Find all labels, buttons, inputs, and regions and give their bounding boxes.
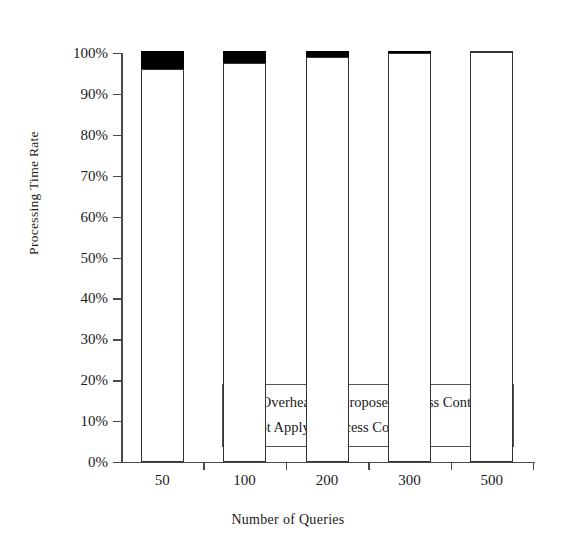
y-tick-label: 60% — [44, 209, 108, 224]
y-tick-mark — [113, 380, 122, 381]
x-tick-mark — [286, 462, 287, 470]
x-tick-label: 200 — [287, 472, 367, 489]
y-tick-mark — [113, 462, 122, 463]
bar-segment-base — [223, 63, 266, 462]
y-tick-mark — [113, 94, 122, 95]
y-tick-mark — [113, 176, 122, 177]
bar-segment-base — [388, 53, 431, 462]
legend-label-overhead: + Overhead for Proposed Access Control — [249, 395, 487, 410]
y-tick-mark — [113, 298, 122, 299]
y-tick-label: 80% — [44, 127, 108, 142]
legend-item-base: Not Apply to Access Control — [231, 415, 505, 440]
x-tick-label: 500 — [452, 472, 532, 489]
x-tick-label: 100 — [205, 472, 285, 489]
y-tick-mark — [113, 53, 122, 54]
bar-segment-overhead — [223, 51, 266, 63]
y-tick-mark — [113, 217, 122, 218]
y-tick-label: 10% — [44, 414, 108, 429]
legend-item-overhead: + Overhead for Proposed Access Control — [231, 390, 505, 415]
y-tick-label: 30% — [44, 332, 108, 347]
bar-segment-base — [470, 51, 513, 462]
bar-segment-base — [306, 57, 349, 462]
bar-segment-overhead — [388, 51, 431, 53]
x-axis-title: Number of Queries — [0, 512, 576, 528]
x-tick-mark — [368, 462, 369, 470]
y-axis-tick-labels: 0%10%20%30%40%50%60%70%80%90%100% — [40, 0, 108, 560]
y-tick-label: 50% — [44, 250, 108, 265]
x-tick-mark — [451, 462, 452, 470]
bar-segment-overhead — [141, 51, 184, 69]
x-tick-mark — [533, 462, 534, 470]
y-tick-label: 20% — [44, 373, 108, 388]
y-tick-label: 40% — [44, 291, 108, 306]
bar-chart: Processing Time Rate 0%10%20%30%40%50%60… — [0, 0, 576, 560]
y-tick-mark — [113, 135, 122, 136]
x-tick-label: 300 — [369, 472, 449, 489]
y-tick-label: 90% — [44, 86, 108, 101]
y-tick-label: 70% — [44, 168, 108, 183]
bar-segment-base — [141, 69, 184, 462]
y-tick-label: 100% — [44, 46, 108, 61]
x-tick-label: 50 — [122, 472, 202, 489]
bar-segment-overhead — [306, 51, 349, 57]
bar-segment-top-outline — [470, 51, 513, 53]
y-tick-label: 0% — [44, 455, 108, 470]
y-tick-mark — [113, 339, 122, 340]
y-tick-mark — [113, 258, 122, 259]
x-tick-mark — [203, 462, 204, 470]
y-tick-mark — [113, 421, 122, 422]
